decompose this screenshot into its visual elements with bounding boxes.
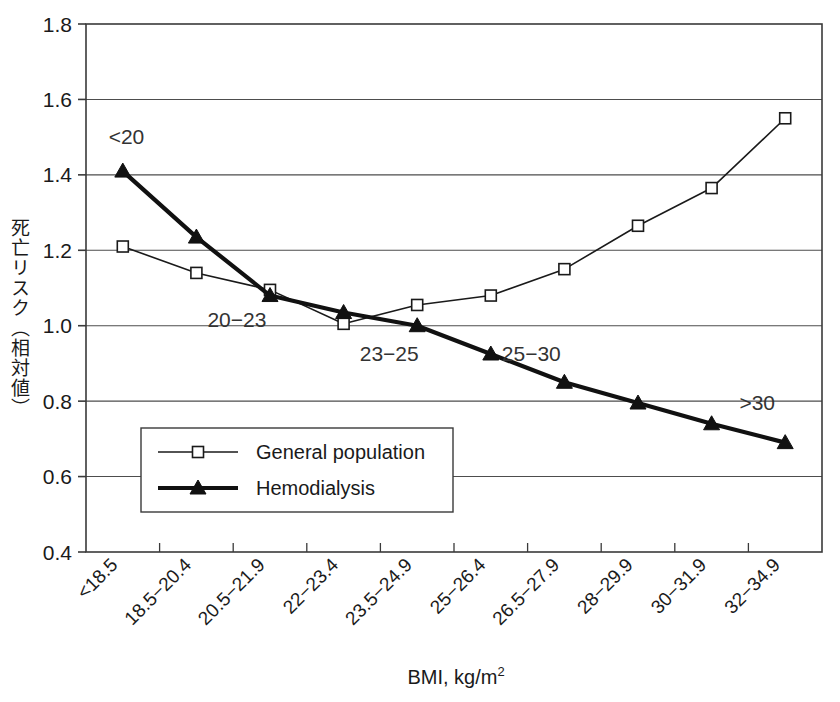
- annotation-label: 20−23: [207, 308, 266, 331]
- data-point-marker-square: [780, 113, 791, 124]
- x-axis-title: BMI, kg/m2: [407, 664, 504, 688]
- y-tick-label: 0.6: [43, 465, 72, 488]
- data-point-marker-square: [191, 267, 202, 278]
- data-point-marker-square: [485, 290, 496, 301]
- data-point-marker-square: [559, 264, 570, 275]
- x-axis-title-superscript: 2: [497, 664, 504, 679]
- data-point-marker-square: [412, 299, 423, 310]
- x-axis-title-base: BMI, kg/m: [407, 666, 497, 688]
- legend-label: Hemodialysis: [256, 477, 375, 499]
- legend-label: General population: [256, 441, 425, 463]
- data-point-marker-square: [338, 318, 349, 329]
- y-tick-label: 1.4: [43, 163, 73, 186]
- series-line: [123, 171, 785, 443]
- x-tick-label: 28−29.9: [573, 554, 637, 618]
- data-point-marker-square: [193, 447, 204, 458]
- x-tick-label: 18.5−20.4: [120, 554, 195, 629]
- y-tick-label: 1.2: [43, 239, 72, 262]
- x-tick-label: 22−23.4: [279, 554, 343, 618]
- chart-annotations: <2020−2323−2525−30>30: [109, 125, 775, 414]
- x-tick-label: 23.5−24.9: [341, 554, 416, 629]
- x-tick-label: 25−26.4: [426, 554, 490, 618]
- x-tick-label: 26.5−27.9: [488, 554, 563, 629]
- y-tick-label: 1.8: [43, 13, 72, 36]
- y-axis-tick-labels: 0.40.60.81.01.21.41.61.8: [43, 13, 73, 564]
- series-line: [123, 118, 785, 324]
- y-tick-label: 0.8: [43, 390, 72, 413]
- y-axis-title: 死亡リスク（相対値）: [4, 168, 34, 468]
- x-tick-label: 20.5−21.9: [194, 554, 269, 629]
- x-axis-tick-labels: <18.518.5−20.420.5−21.922−23.423.5−24.92…: [73, 554, 784, 629]
- data-point-marker-square: [706, 183, 717, 194]
- y-tick-label: 1.0: [43, 314, 72, 337]
- data-point-marker-triangle: [115, 163, 131, 177]
- x-tick-label: 30−31.9: [647, 554, 711, 618]
- series-general-population: [117, 113, 790, 330]
- chart-legend[interactable]: General populationHemodialysis: [141, 428, 453, 512]
- y-tick-label: 1.6: [43, 88, 72, 111]
- chart-figure: 死亡リスク（相対値） 0.40.60.81.01.21.41.61.8 <18.…: [0, 0, 840, 702]
- x-axis-tick-marks: [160, 543, 749, 552]
- y-axis-tick-marks: [78, 24, 86, 552]
- x-tick-label: 32−34.9: [720, 554, 784, 618]
- annotation-label: 25−30: [502, 342, 561, 365]
- mortality-risk-bmi-line-chart: 0.40.60.81.01.21.41.61.8 <18.518.5−20.42…: [0, 0, 840, 702]
- data-point-marker-square: [117, 241, 128, 252]
- series-hemodialysis: [115, 163, 793, 449]
- annotation-label: 23−25: [360, 342, 419, 365]
- data-series-layer: [115, 113, 793, 449]
- data-point-marker-square: [633, 220, 644, 231]
- annotation-label: <20: [109, 125, 145, 148]
- annotation-label: >30: [739, 391, 775, 414]
- y-tick-label: 0.4: [43, 541, 73, 564]
- x-tick-label: <18.5: [73, 554, 122, 603]
